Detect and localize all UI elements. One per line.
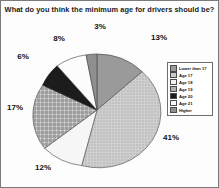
legend-label: Age 18 xyxy=(179,80,192,85)
value-label-age-19: 17% xyxy=(7,103,23,112)
legend-item-age-19[interactable]: Age 19 xyxy=(170,86,210,92)
chart-frame: What do you think the minimum age for dr… xyxy=(0,0,219,188)
legend-swatch-icon xyxy=(170,107,177,114)
legend-label: Lower than 17 xyxy=(179,66,207,71)
legend-item-age-21[interactable]: Age 21 xyxy=(170,100,210,106)
legend-item-age-18[interactable]: Age 18 xyxy=(170,79,210,85)
legend-label: Age 17 xyxy=(179,73,192,78)
value-label-age-20: 6% xyxy=(17,52,29,61)
value-label-age-21: 8% xyxy=(53,34,65,43)
legend-swatch-icon xyxy=(170,86,177,93)
legend-label: Higher xyxy=(179,108,192,113)
value-label-higher: 3% xyxy=(94,22,106,31)
legend-label: Age 20 xyxy=(179,94,192,99)
value-label-age-18: 12% xyxy=(35,163,51,172)
value-label-age-17: 41% xyxy=(163,133,179,142)
chart-title: What do you think the minimum age for dr… xyxy=(1,5,218,14)
legend-swatch-icon xyxy=(170,93,177,100)
legend-item-age-20[interactable]: Age 20 xyxy=(170,93,210,99)
legend-label: Age 21 xyxy=(179,101,192,106)
legend-label: Age 19 xyxy=(179,87,192,92)
value-label-lower-than-17: 13% xyxy=(151,33,167,42)
legend-swatch-icon xyxy=(170,65,177,72)
legend-item-lower-than-17[interactable]: Lower than 17 xyxy=(170,65,210,71)
chart-legend: Lower than 17 Age 17 Age 18 Age 19 Age 2… xyxy=(167,62,213,116)
pie-slices xyxy=(33,54,161,168)
legend-item-higher[interactable]: Higher xyxy=(170,107,210,113)
legend-item-age-17[interactable]: Age 17 xyxy=(170,72,210,78)
legend-swatch-icon xyxy=(170,72,177,79)
legend-swatch-icon xyxy=(170,100,177,107)
legend-swatch-icon xyxy=(170,79,177,86)
